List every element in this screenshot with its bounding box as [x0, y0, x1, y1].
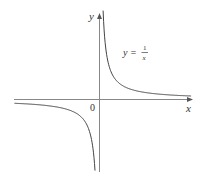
x-axis-label: x: [185, 102, 191, 114]
function-label-numerator: 1: [143, 44, 147, 52]
function-label-denominator: x: [142, 54, 147, 62]
function-label-lhs: y =: [122, 47, 137, 58]
origin-label: 0: [90, 102, 95, 113]
y-axis-label: y: [88, 10, 94, 22]
curve-negative-branch: [15, 103, 96, 170]
curve-positive-branch: [103, 11, 191, 96]
y-axis-arrow-icon: [97, 13, 102, 19]
chart-svg: y x 0 y = 1 x: [0, 0, 199, 177]
